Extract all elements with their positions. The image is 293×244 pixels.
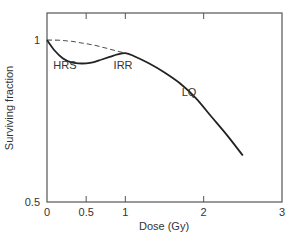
y-axis-label: Surviving fraction — [3, 66, 15, 150]
x-tick-label: 0.5 — [79, 206, 94, 218]
plot-frame — [47, 13, 282, 202]
x-tick-label: 2 — [201, 206, 207, 218]
x-tick-label: 3 — [279, 206, 285, 218]
lq-extrapolation-line — [47, 40, 125, 53]
x-tick-label: 1 — [122, 206, 128, 218]
y-tick-label: 1 — [34, 34, 40, 46]
survival-chart: 00.51230.51 HRSIRRLQ Dose (Gy) Surviving… — [0, 0, 293, 244]
annotation-irr: IRR — [114, 59, 133, 71]
annotation-hrs: HRS — [53, 59, 76, 71]
x-axis-label: Dose (Gy) — [139, 220, 189, 232]
annotation-lq: LQ — [182, 86, 197, 98]
y-tick-label: 0.5 — [25, 196, 40, 208]
survival-curve — [47, 40, 243, 156]
axis-ticks — [86, 13, 204, 202]
x-tick-label: 0 — [44, 206, 50, 218]
curve-annotations: HRSIRRLQ — [53, 59, 197, 99]
